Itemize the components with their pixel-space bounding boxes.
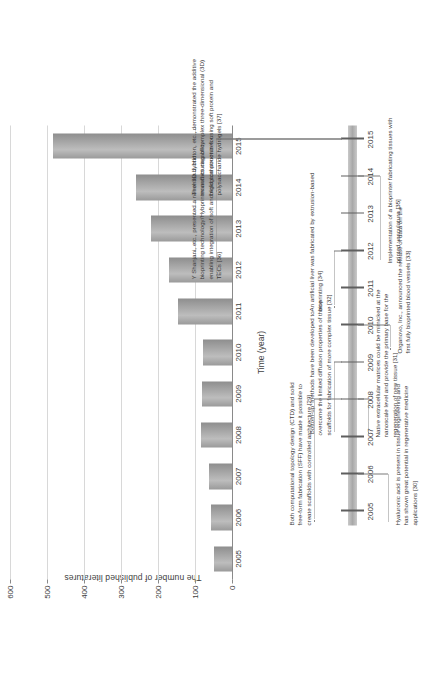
event-timeline: 2005200620072008200920102011201220132014… (286, 125, 428, 525)
timeline-tickmark (341, 435, 364, 437)
bar (209, 463, 232, 489)
note-hinton: Thomas J. Hinton, etc., demonstrated the… (190, 47, 223, 195)
bar-cell (10, 414, 232, 455)
annotation-leader-stem (358, 398, 368, 399)
annotation-leader-line (334, 362, 335, 431)
y-axis-tick-label: 300 (117, 585, 126, 598)
bar (211, 504, 232, 530)
timeline-tickmark (341, 286, 364, 288)
bar (203, 339, 232, 365)
y-axis-tick-label: 600 (6, 585, 15, 598)
timeline-tickmark (341, 361, 364, 363)
bar-cell (10, 331, 232, 372)
bar (201, 422, 232, 448)
timeline-tickmark (341, 509, 364, 511)
annotation-leader-line (368, 399, 369, 433)
annotation-leader-line (390, 325, 391, 349)
note-ctd-sff: Both computational topology design (CTD)… (288, 377, 313, 525)
timeline-year-label: 2013 (366, 205, 375, 223)
bar (202, 381, 232, 407)
annotation-leader-stem (334, 361, 342, 362)
y-axis-tick-labels: 0100200300400500600 (10, 581, 232, 615)
bar-cell (10, 373, 232, 414)
annotation-leader-line (380, 176, 381, 259)
annotation-leader-stem (358, 473, 388, 474)
annotation-leader-line (314, 399, 315, 521)
y-axis-tickmark (121, 579, 122, 583)
y-axis-tickmark (195, 579, 196, 583)
annotation-leader-stem (358, 175, 380, 176)
y-axis-tick-label: 400 (80, 585, 89, 598)
annotation-leader-stem (314, 398, 342, 399)
timeline-tickmark (341, 137, 364, 139)
timeline-tickmark (341, 212, 364, 214)
y-axis-tick-label: 0 (228, 585, 237, 589)
timeline-tickmark (341, 249, 364, 251)
bar-cell (10, 538, 232, 579)
annotation-leader-line (334, 251, 335, 307)
timeline-year-label: 2015 (366, 130, 375, 148)
annotation-leader-stem (358, 324, 390, 325)
y-axis-tickmark (10, 579, 11, 583)
y-axis-tick-label: 500 (43, 585, 52, 598)
y-axis-tick-label: 100 (191, 585, 200, 598)
timeline-year-label: 2005 (366, 502, 375, 520)
y-axis-tickmark (158, 579, 159, 583)
figure-bioprinting-literature: The number of published literatures 0100… (0, 0, 434, 675)
bar-cell (10, 496, 232, 537)
annotation-leader-line (388, 474, 389, 521)
x-axis-title: Time (year) (256, 125, 266, 579)
bar-cell (10, 290, 232, 331)
note-artificial-liver: An artificial liver was fabricated by ex… (308, 163, 325, 311)
y-axis-tickmark (47, 579, 48, 583)
figure-rotation-wrapper: The number of published literatures 0100… (0, 0, 434, 675)
bar-cell (10, 455, 232, 496)
y-axis-tickmark (84, 579, 85, 583)
annotation-leader-line (216, 139, 217, 191)
annotation-leader-stem (216, 138, 342, 139)
y-axis-tick-label: 200 (154, 585, 163, 598)
note-bioprinter-vasculature: Implementation of a bioprinter fabricati… (386, 115, 403, 263)
bar-chart: The number of published literatures 0100… (10, 125, 270, 615)
y-axis-tickmark (232, 579, 233, 583)
bar (214, 546, 233, 572)
timeline-year-label: 2012 (366, 242, 375, 260)
annotation-leader-stem (334, 250, 342, 251)
bar (178, 298, 232, 324)
